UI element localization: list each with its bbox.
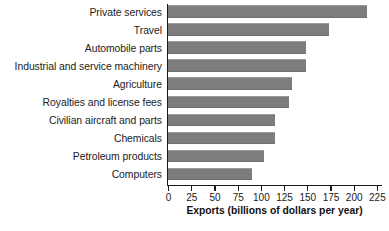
category-label: Petroleum products xyxy=(0,151,162,164)
x-axis-tick-label: 200 xyxy=(346,192,363,203)
plot-area: 0255075100125150175200225 xyxy=(167,4,382,186)
category-label: Industrial and service machinery xyxy=(0,61,162,74)
bar xyxy=(168,5,367,18)
bar xyxy=(168,23,329,36)
bar xyxy=(168,150,264,163)
x-axis-line xyxy=(167,185,382,186)
category-label: Automobile parts xyxy=(0,43,162,56)
category-label: Chemicals xyxy=(0,133,162,146)
x-axis-tick-label: 225 xyxy=(369,192,386,203)
category-label: Travel xyxy=(0,25,162,38)
x-axis-tick xyxy=(214,186,215,191)
category-label: Agriculture xyxy=(0,79,162,92)
category-label: Computers xyxy=(0,169,162,182)
category-label: Royalties and license fees xyxy=(0,97,162,110)
x-axis-tick xyxy=(261,186,262,191)
bar xyxy=(168,59,306,72)
x-axis-tick-label: 75 xyxy=(233,192,244,203)
x-axis-tick xyxy=(307,186,308,191)
bar xyxy=(168,132,275,145)
category-axis: Private servicesTravelAutomobile partsIn… xyxy=(0,5,162,186)
x-axis-tick xyxy=(330,186,331,191)
category-label: Civilian aircraft and parts xyxy=(0,115,162,128)
x-axis-tick-label: 100 xyxy=(253,192,270,203)
bar xyxy=(168,168,252,181)
bar xyxy=(168,77,292,90)
bar xyxy=(168,96,289,109)
x-axis-tick-label: 50 xyxy=(209,192,220,203)
x-axis-tick-label: 25 xyxy=(186,192,197,203)
x-axis-tick-label: 175 xyxy=(323,192,340,203)
x-axis-tick xyxy=(191,186,192,191)
x-axis-title: Exports (billions of dollars per year) xyxy=(167,205,382,216)
x-axis-tick-label: 125 xyxy=(276,192,293,203)
x-axis-tick xyxy=(238,186,239,191)
bar xyxy=(168,41,306,54)
x-axis-tick-label: 150 xyxy=(299,192,316,203)
x-axis-tick xyxy=(284,186,285,191)
x-axis-tick xyxy=(168,186,169,191)
bar-chart: Private servicesTravelAutomobile partsIn… xyxy=(0,0,389,231)
x-axis-tick-label: 0 xyxy=(166,192,172,203)
x-axis-tick xyxy=(377,186,378,191)
x-axis-tick xyxy=(354,186,355,191)
category-label: Private services xyxy=(0,7,162,20)
bar xyxy=(168,114,275,127)
